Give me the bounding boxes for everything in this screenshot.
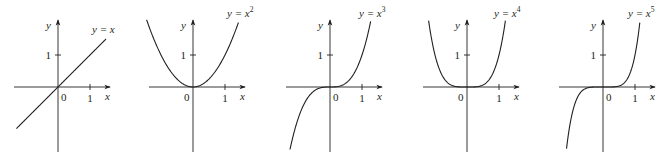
- x-tick-label: 1: [496, 92, 502, 104]
- x-tick-label: 1: [222, 92, 228, 104]
- y-tick-label: 1: [46, 49, 52, 61]
- plot-y-equals-x-pow-4: 110yxy = x4: [423, 5, 521, 152]
- y-axis-label: y: [454, 19, 460, 31]
- exponent: 5: [651, 5, 655, 14]
- y-axis-label: y: [45, 19, 51, 31]
- function-label: y = x: [91, 23, 115, 35]
- x-axis-label: x: [239, 90, 245, 102]
- exponent: 2: [250, 5, 254, 14]
- y-axis-label: y: [590, 19, 596, 31]
- power-functions-figure: 110yxy = x110yxy = x2110yxy = x3110yxy =…: [0, 0, 665, 164]
- x-axis-label: x: [649, 90, 655, 102]
- origin-label: 0: [606, 91, 612, 103]
- y-tick-label: 1: [318, 49, 324, 61]
- function-label: y = x3: [358, 5, 386, 19]
- function-label: y = x4: [493, 5, 521, 19]
- origin-label: 0: [61, 91, 67, 103]
- plot-y-equals-x-pow-3: 110yxy = x3: [286, 5, 386, 152]
- y-tick-label: 1: [591, 49, 597, 61]
- curve: [147, 20, 239, 87]
- exponent: 3: [382, 5, 386, 14]
- y-axis-label: y: [180, 19, 186, 31]
- origin-label: 0: [184, 91, 190, 103]
- x-axis-label: x: [376, 90, 382, 102]
- curve: [16, 39, 106, 129]
- plot-y-equals-x-pow-5: 110yxy = x5: [559, 5, 655, 152]
- plot-y-equals-x-pow-1: 110yxy = x: [14, 19, 115, 152]
- function-label: y = x5: [627, 5, 655, 19]
- y-tick-label: 1: [455, 49, 461, 61]
- y-tick-label: 1: [181, 49, 187, 61]
- x-tick-label: 1: [632, 92, 638, 104]
- y-axis-label: y: [317, 19, 323, 31]
- origin-label: 0: [458, 91, 464, 103]
- x-tick-label: 1: [359, 92, 365, 104]
- exponent: 4: [517, 5, 521, 14]
- plot-y-equals-x-pow-2: 110yxy = x2: [147, 5, 254, 152]
- x-axis-label: x: [513, 90, 519, 102]
- x-tick-label: 1: [87, 92, 93, 104]
- origin-label: 0: [333, 91, 339, 103]
- function-label: y = x2: [226, 5, 254, 19]
- x-axis-label: x: [104, 90, 110, 102]
